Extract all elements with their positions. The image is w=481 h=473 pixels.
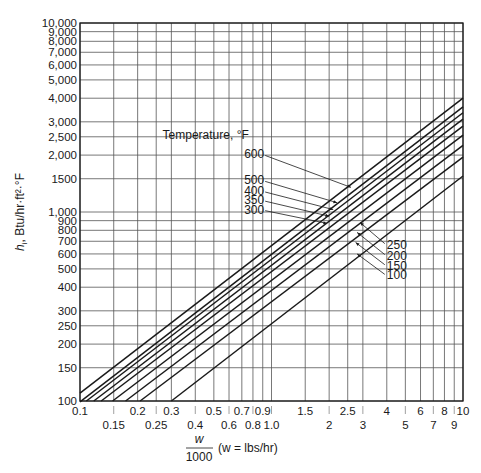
x-tick-label: 0.5 (206, 405, 222, 417)
y-tick-label: 500 (58, 263, 77, 275)
y-tick-label: 1500 (51, 173, 77, 185)
leader-line (357, 232, 385, 254)
curve-350F (94, 119, 463, 401)
x-tick-label: 4 (384, 405, 391, 417)
x-tick-label: 0.4 (187, 419, 204, 431)
x-tick-label: 0.1 (72, 405, 88, 417)
y-tick-label: 700 (58, 235, 77, 247)
x-tick-label: 7 (430, 419, 436, 431)
leader-line (265, 181, 337, 202)
y-tick-label: 5,000 (48, 74, 77, 86)
y-tick-label: 2,500 (48, 131, 77, 143)
x-tick-label: 2.5 (340, 405, 356, 417)
y-tick-label: 250 (58, 320, 77, 332)
x-tick-label: 0.8 (245, 419, 261, 431)
curve-150F (140, 157, 463, 401)
x-tick-label: 10 (457, 405, 470, 417)
y-axis-ticks: 10,0009,0008,0007,0006,0005,0004,0003,00… (42, 17, 77, 407)
x-axis-ticks: 0.10.20.30.50.70.91.52.5468100.150.250.4… (72, 405, 469, 431)
y-tick-label: 4,000 (48, 92, 77, 104)
x-axis-unit: (w = lbs/hr) (218, 441, 278, 455)
y-tick-label: 300 (58, 305, 77, 317)
x-tick-label: 0.3 (163, 405, 179, 417)
x-tick-label: 0.2 (130, 405, 146, 417)
x-tick-label: 3 (360, 419, 366, 431)
legend-title: Temperature, °F (163, 128, 249, 142)
svg-text:w: w (195, 432, 205, 446)
x-tick-label: 0.15 (103, 419, 125, 431)
leader-line (265, 192, 333, 210)
curve-200F (126, 145, 463, 401)
label-300F: 300 (244, 203, 264, 217)
label-100F: 100 (387, 268, 407, 282)
x-tick-label: 8 (441, 405, 447, 417)
x-tick-label: 0.7 (234, 405, 250, 417)
leader-line (265, 155, 351, 187)
y-tick-label: 400 (58, 281, 77, 293)
leader-line (357, 254, 385, 274)
x-tick-label: 9 (451, 419, 457, 431)
y-tick-label: 3,000 (48, 116, 77, 128)
y-tick-label: 600 (58, 248, 77, 260)
y-axis-label: hi, Btu/hr·ft²·°F (13, 173, 29, 251)
curve-250F (113, 135, 463, 401)
label-600F: 600 (244, 147, 264, 161)
x-tick-label: 0.6 (221, 419, 237, 431)
x-tick-label: 0.25 (145, 419, 167, 431)
x-tick-label: 1.5 (297, 405, 313, 417)
x-tick-label: 1.0 (264, 419, 280, 431)
chart: 600500400350300250200150100 10,0009,0008… (0, 0, 481, 473)
y-tick-label: 6,000 (48, 59, 77, 71)
svg-text:1000: 1000 (186, 450, 213, 464)
x-tick-label: 6 (417, 405, 423, 417)
y-tick-label: 2,000 (48, 149, 77, 161)
leader-line (265, 211, 327, 224)
x-tick-label: 5 (402, 419, 408, 431)
curve-300F (101, 126, 463, 401)
x-tick-label: 2 (326, 419, 332, 431)
x-axis-label: w 1000 (w = lbs/hr) (186, 432, 278, 464)
svg-text:hi, Btu/hr·ft²·°F: hi, Btu/hr·ft²·°F (13, 173, 29, 251)
arrowhead-icon (333, 200, 337, 203)
y-tick-label: 7,000 (48, 46, 77, 58)
y-tick-label: 150 (58, 362, 77, 374)
x-tick-label: 0.9 (255, 405, 271, 417)
y-tick-label: 200 (58, 338, 77, 350)
